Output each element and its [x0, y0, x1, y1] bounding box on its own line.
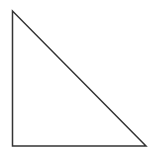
right-triangle-diagram: [0, 0, 158, 161]
diagram-canvas: [0, 0, 158, 161]
right-triangle-shape: [13, 11, 147, 146]
